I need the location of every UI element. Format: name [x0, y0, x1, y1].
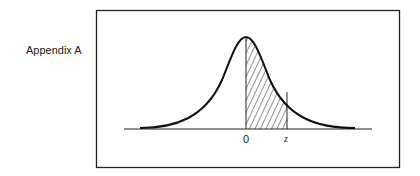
z-label: z — [283, 133, 288, 144]
origin-label: 0 — [243, 133, 249, 145]
normal-curve-figure: 0 z — [0, 0, 420, 176]
shaded-area — [140, 37, 355, 129]
